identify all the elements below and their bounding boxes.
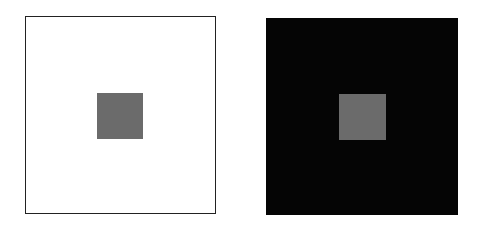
gray-square-on-white	[97, 93, 143, 139]
gray-square-on-black	[339, 94, 386, 140]
